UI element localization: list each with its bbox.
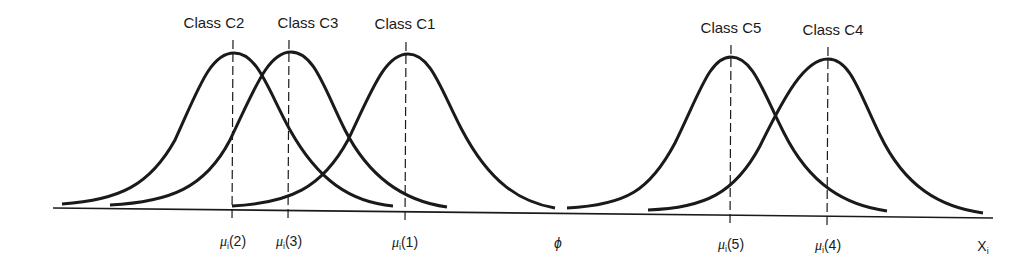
mu-symbol: μ — [717, 237, 725, 252]
class-label-c5: Class C5 — [701, 19, 762, 36]
mu-symbol: μ — [275, 234, 283, 249]
mean-label-c3: μi(3) — [275, 233, 302, 251]
class-label-c3: Class C3 — [278, 14, 339, 31]
mu-symbol: μ — [814, 238, 822, 253]
mean-line-c5 — [730, 45, 731, 226]
curve-class-c1 — [232, 54, 555, 208]
class-label-c2: Class C2 — [184, 14, 245, 31]
class-label-c4: Class C4 — [803, 21, 864, 38]
curve-class-c3 — [110, 52, 447, 207]
class-label-c1: Class C1 — [375, 15, 436, 32]
mu-symbol: μ — [391, 235, 399, 250]
origin-phi-label: ϕ — [554, 235, 562, 251]
mean-label-c2: μi(2) — [219, 233, 246, 251]
gaussian-class-diagram: Class C2 Class C3 Class C1 Class C5 Clas… — [0, 0, 1035, 274]
x-axis-line — [53, 208, 993, 218]
mean-label-c5: μi(5) — [717, 236, 744, 254]
mean-label-c4: μi(4) — [814, 237, 841, 255]
curve-class-c4 — [648, 59, 983, 213]
x-axis-label: Xi — [977, 238, 988, 256]
mean-line-c4 — [827, 47, 828, 228]
mu-symbol: μ — [219, 234, 227, 249]
mean-label-c1: μi(1) — [391, 234, 418, 252]
